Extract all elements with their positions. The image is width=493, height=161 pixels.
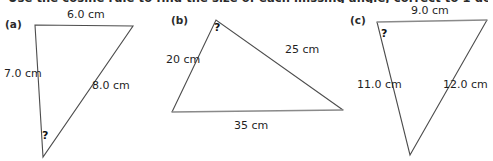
- triangle-a-top-side-label: 6.0 cm: [67, 9, 105, 20]
- triangle-c-right-side-label: 12.0 cm: [443, 79, 488, 90]
- triangles-diagram: [0, 0, 493, 161]
- triangle-b-bottom-side-label: 35 cm: [234, 120, 268, 131]
- triangle-c-top-side-label: 9.0 cm: [411, 5, 449, 16]
- triangle-b-unknown-angle: ?: [214, 22, 220, 33]
- triangle-a-unknown-angle: ?: [42, 130, 48, 141]
- triangle-b-shape: [172, 20, 343, 112]
- triangle-b-right-side-label: 25 cm: [285, 44, 319, 55]
- figure-sheet: Use the cosine rule to find the size of …: [0, 0, 493, 161]
- triangle-c-top: [377, 20, 487, 22]
- triangle-b-left-side-label: 20 cm: [166, 54, 200, 65]
- triangle-c-left-side-label: 11.0 cm: [357, 79, 402, 90]
- triangle-b-outline: [172, 20, 343, 112]
- part-label-c: (c): [350, 15, 366, 26]
- triangle-c-unknown-angle: ?: [381, 28, 387, 39]
- part-label-a: (a): [5, 19, 22, 30]
- part-label-b: (b): [171, 15, 188, 26]
- triangle-a-right-side-label: 8.0 cm: [92, 80, 130, 91]
- triangle-b-base: [172, 110, 343, 112]
- triangle-a-left-side-label: 7.0 cm: [4, 68, 42, 79]
